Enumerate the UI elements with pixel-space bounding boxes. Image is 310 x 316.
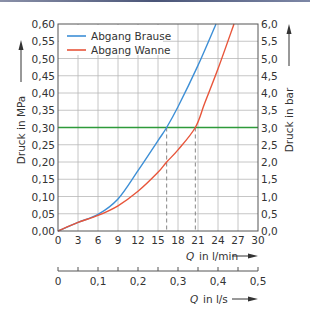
x-tick-label: 27: [231, 234, 244, 246]
y-tick-label-left: 0,45: [32, 70, 55, 82]
x-axis-secondary: 00,10,20,30,40,5: [55, 267, 267, 287]
y-tick-label-left: 0,60: [32, 18, 55, 30]
y-tick-label-right: 4,5: [261, 70, 278, 82]
y-tick-label-right: 3,0: [261, 122, 278, 134]
legend: Abgang Brause Abgang Wanne: [59, 25, 171, 56]
svg-text:Q: Q: [190, 293, 198, 305]
arrow-right-icon-secondary: [232, 297, 258, 302]
y-tick-label-right: 1,0: [261, 191, 278, 203]
y-axis-left-label: Druck in MPa: [15, 96, 27, 165]
y-tick-label-right: 4,0: [261, 87, 278, 99]
secondary-x-tick-label: 0,1: [90, 275, 107, 287]
y-tick-label-right: 0,5: [261, 208, 278, 220]
x-tick-label: 30: [251, 234, 264, 246]
svg-text:in l/s: in l/s: [203, 293, 228, 305]
y-tick-label-left: 0,55: [32, 35, 55, 47]
svg-text:Druck in MPa: Druck in MPa: [15, 96, 27, 165]
y-axis-right-label: Druck in bar: [283, 87, 295, 152]
svg-text:Druck in bar: Druck in bar: [283, 87, 295, 152]
x-tick-label: 0: [55, 234, 62, 246]
x-axis-ticks: 036912151821242730: [55, 234, 265, 246]
arrow-up-icon-left: [19, 40, 24, 82]
secondary-x-tick-label: 0: [55, 275, 62, 287]
x-tick-label: 12: [131, 234, 144, 246]
secondary-x-tick-label: 0,5: [250, 275, 267, 287]
y-tick-label-right: 5,0: [261, 53, 278, 65]
x-tick-label: 15: [151, 234, 164, 246]
y-tick-label-right: 1,5: [261, 173, 278, 185]
secondary-x-tick-label: 0,2: [130, 275, 147, 287]
x-tick-label: 24: [211, 234, 225, 246]
y-tick-label-right: 5,5: [261, 35, 278, 47]
y-tick-label-left: 0,15: [32, 173, 55, 185]
y-tick-label-left: 0,35: [32, 104, 55, 116]
y-tick-label-right: 3,5: [261, 104, 278, 116]
x-axis-label-primary: Q in l/min: [186, 250, 238, 262]
svg-text:Q: Q: [186, 250, 194, 262]
y-tick-label-left: 0,20: [32, 156, 55, 168]
y-tick-label-left: 0,05: [32, 208, 55, 220]
secondary-x-tick-label: 0,4: [210, 275, 227, 287]
arrow-up-icon-right: [287, 24, 292, 66]
y-axis-left-ticks: 0,000,050,100,150,200,250,300,350,400,45…: [32, 18, 55, 237]
legend-label-brause: Abgang Brause: [91, 30, 171, 42]
x-axis-label-secondary: Q in l/s: [190, 293, 228, 305]
x-tick-label: 18: [171, 234, 184, 246]
y-tick-label-left: 0,30: [32, 122, 55, 134]
secondary-x-tick-label: 0,3: [170, 275, 187, 287]
y-tick-label-right: 2,5: [261, 139, 278, 151]
x-tick-label: 9: [115, 234, 122, 246]
y-tick-label-right: 2,0: [261, 156, 278, 168]
legend-label-wanne: Abgang Wanne: [91, 44, 171, 56]
y-tick-label-left: 0,10: [32, 191, 55, 203]
x-tick-label: 6: [95, 234, 102, 246]
y-tick-label-left: 0,00: [32, 225, 55, 237]
y-axis-right-ticks: 0,00,51,01,52,02,53,03,54,04,55,05,56,0: [261, 18, 278, 237]
y-tick-label-left: 0,25: [32, 139, 55, 151]
x-tick-label: 3: [75, 234, 82, 246]
pressure-flow-chart: Abgang Brause Abgang Wanne 0,000,050,100…: [0, 0, 310, 316]
x-tick-label: 21: [191, 234, 204, 246]
y-tick-label-left: 0,40: [32, 87, 55, 99]
y-tick-label-right: 6,0: [261, 18, 278, 30]
y-tick-label-left: 0,50: [32, 53, 55, 65]
